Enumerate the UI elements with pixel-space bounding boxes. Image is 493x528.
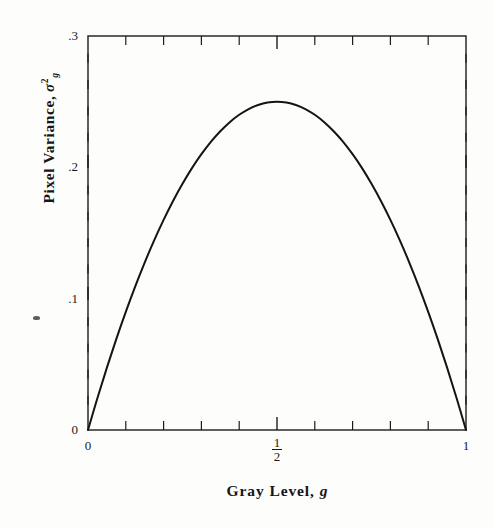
x-tick-label-1: 1 [449, 438, 483, 454]
y-tick-label-0.1: .1 [52, 291, 78, 307]
y-axis-title-text: Pixel Variance, [40, 96, 57, 204]
y-tick-label-0.3: .3 [52, 28, 78, 44]
x-axis-title: Gray Level, g [88, 482, 466, 500]
x-tick-label-0: 0 [71, 438, 105, 454]
y-axis-title: Pixel Variance, σ2g [40, 28, 60, 248]
x-tick-label-one-half: 1 2 [260, 436, 294, 465]
x-axis-title-symbol: g [320, 482, 328, 499]
sigma-superscript: 2 [40, 78, 50, 83]
x-axis-title-text: Gray Level, [227, 482, 315, 499]
x-axis-ticks [126, 417, 428, 430]
plot-frame [88, 36, 466, 430]
y-tick-label-0: 0 [52, 422, 78, 438]
scan-artifact-speck [33, 316, 40, 320]
data-curve [88, 102, 466, 430]
fraction-denominator: 2 [272, 450, 283, 463]
x-axis-top-ticks [126, 36, 428, 49]
figure-canvas: Pixel Variance, σ2g Gray Level, g .3 .2 … [0, 0, 493, 528]
sigma-subscript: g [50, 72, 60, 77]
fraction-numerator: 1 [272, 436, 283, 450]
y-tick-label-0.2: .2 [52, 159, 78, 175]
fraction-one-half: 1 2 [272, 436, 283, 464]
sigma-symbol: σ [41, 83, 57, 92]
